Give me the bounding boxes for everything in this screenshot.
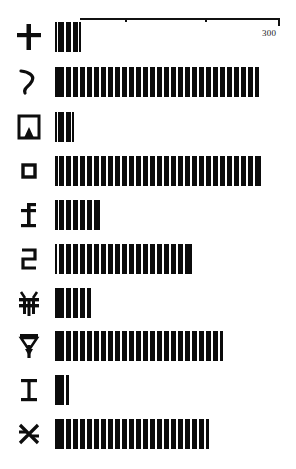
- chart-row: [0, 323, 296, 369]
- glyph-arrow-down-icon: [12, 323, 46, 369]
- glyph-hook-icon: [12, 236, 46, 282]
- chart-row: [0, 148, 296, 194]
- chart-row: [0, 192, 296, 238]
- glyph-x-cross-icon: [12, 411, 46, 457]
- bar: [55, 244, 192, 274]
- glyph-mouth-square-icon: [12, 148, 46, 194]
- chart-row: [0, 14, 296, 60]
- bar: [55, 331, 223, 361]
- glyph-bird-icon: [12, 280, 46, 326]
- chart-row: [0, 59, 296, 105]
- chart-row: [0, 104, 296, 150]
- chart-row: [0, 280, 296, 326]
- bar: [55, 22, 81, 52]
- glyph-arch-square-icon: [12, 104, 46, 150]
- glyph-i-beam-icon: [12, 367, 46, 413]
- bar: [55, 200, 100, 230]
- chart-row: [0, 236, 296, 282]
- bar-chart-figure: 300: [0, 0, 296, 469]
- bar: [55, 67, 259, 97]
- bar: [55, 156, 261, 186]
- glyph-zigzag-icon: [12, 59, 46, 105]
- chart-row: [0, 411, 296, 457]
- glyph-cross-icon: [12, 14, 46, 60]
- glyph-cross-stem-icon: [12, 192, 46, 238]
- bar: [55, 112, 74, 142]
- chart-row: [0, 367, 296, 413]
- bar: [55, 419, 209, 449]
- bar: [55, 375, 69, 405]
- bar: [55, 288, 91, 318]
